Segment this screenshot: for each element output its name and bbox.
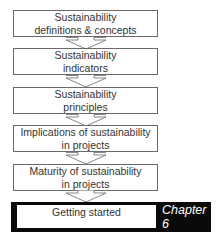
step-implications: Implications of sustainability in projec… — [13, 125, 158, 152]
step-label-line1: Sustainability — [14, 49, 157, 62]
getting-started-bar: Getting started Chapter 6 — [11, 202, 211, 232]
step-principles: Sustainability principles — [13, 87, 158, 114]
step-label-line2: principles — [14, 101, 157, 114]
step-label-line1: Implications of sustainability — [14, 126, 157, 139]
chapter-number: 6 — [162, 217, 206, 231]
step-indicators: Sustainability indicators — [13, 48, 158, 75]
step-label-line1: Sustainability — [14, 88, 157, 101]
step-label-line2: definitions & concepts — [14, 24, 157, 37]
chapter-word: Chapter — [162, 203, 206, 217]
step-label-line2: indicators — [14, 62, 157, 75]
step-label-line2: in projects — [14, 178, 157, 191]
chapter-label: Chapter 6 — [162, 203, 206, 231]
step-label-line1: Sustainability — [14, 11, 157, 24]
step-maturity: Maturity of sustainability in projects — [13, 164, 158, 191]
step-label-line2: in projects — [14, 139, 157, 152]
step-label-line1: Maturity of sustainability — [14, 165, 157, 178]
step-definitions-concepts: Sustainability definitions & concepts — [13, 10, 158, 37]
step-getting-started: Getting started — [17, 205, 156, 228]
step-label: Getting started — [52, 206, 121, 218]
